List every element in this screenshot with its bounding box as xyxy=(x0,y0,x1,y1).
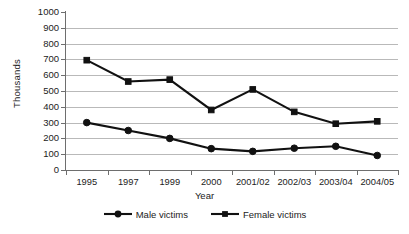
data-point xyxy=(167,77,173,83)
legend-item[interactable]: Male victims xyxy=(103,208,188,220)
y-axis-tick-label: 800 xyxy=(3,38,59,49)
x-axis-tick xyxy=(232,170,233,175)
y-axis-tick-label: 100 xyxy=(3,148,59,159)
legend-circle-marker-icon xyxy=(103,208,133,220)
x-axis-tick-label: 2004/05 xyxy=(360,177,394,187)
y-axis-tick-label: 0 xyxy=(3,164,59,175)
x-axis-tick-label: 1995 xyxy=(76,177,97,187)
y-axis-tick-label: 400 xyxy=(3,101,59,112)
y-axis-tick-labels: 01002003004005006007008009001000 xyxy=(0,12,59,170)
data-point xyxy=(291,109,297,115)
y-axis-tick-label: 1000 xyxy=(3,6,59,17)
series-line-square xyxy=(87,60,378,124)
data-point xyxy=(374,152,381,159)
data-point xyxy=(291,145,298,152)
y-axis-tick-label: 300 xyxy=(3,117,59,128)
chart-legend: Male victimsFemale victims xyxy=(0,208,409,220)
x-axis-title: Year xyxy=(0,190,409,201)
line-chart: Thousands 010020030040050060070080090010… xyxy=(0,0,409,234)
x-axis-tick xyxy=(398,170,399,175)
x-axis-tick-label: 2001/02 xyxy=(236,177,270,187)
legend-item[interactable]: Female victims xyxy=(210,208,306,220)
data-point xyxy=(84,57,90,63)
x-axis-tick xyxy=(315,170,316,175)
y-axis-tick-label: 900 xyxy=(3,22,59,33)
data-point xyxy=(250,87,256,93)
x-axis-tick xyxy=(66,170,67,175)
x-axis-tick xyxy=(108,170,109,175)
x-axis-tick-label: 2003/04 xyxy=(319,177,353,187)
data-point xyxy=(208,145,215,152)
legend-label: Male victims xyxy=(136,209,188,220)
x-axis-tick-label: 1997 xyxy=(118,177,139,187)
x-axis-tick xyxy=(191,170,192,175)
data-point xyxy=(83,119,90,126)
y-axis-tick-label: 700 xyxy=(3,53,59,64)
y-axis-tick-label: 200 xyxy=(3,132,59,143)
series-layer xyxy=(66,12,398,170)
data-point xyxy=(332,143,339,150)
data-point xyxy=(166,135,173,142)
data-point xyxy=(208,107,214,113)
legend-label: Female victims xyxy=(243,209,306,220)
x-axis-tick xyxy=(274,170,275,175)
x-axis-tick xyxy=(357,170,358,175)
y-axis-tick-label: 500 xyxy=(3,85,59,96)
data-point xyxy=(125,79,131,85)
data-point xyxy=(249,148,256,155)
data-point xyxy=(374,119,380,125)
data-point xyxy=(125,127,132,134)
x-axis-tick-label: 2002/03 xyxy=(277,177,311,187)
x-axis-tick-label: 2000 xyxy=(201,177,222,187)
y-axis-tick-label: 600 xyxy=(3,69,59,80)
x-axis-tick xyxy=(149,170,150,175)
legend-square-marker-icon xyxy=(210,208,240,220)
data-point xyxy=(333,121,339,127)
x-axis-tick-label: 1999 xyxy=(159,177,180,187)
x-axis-tick-labels: 19951997199920002001/022002/032003/04200… xyxy=(66,177,398,191)
